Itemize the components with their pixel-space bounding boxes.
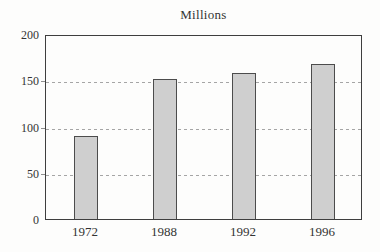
- y-tick-label-0: 0: [3, 214, 39, 226]
- x-tick-label-1992: 1992: [213, 224, 273, 240]
- y-tick-label-100: 100: [3, 122, 39, 134]
- bar-1988: [153, 79, 177, 219]
- y-tick-mark-150: [41, 81, 45, 82]
- y-tick-mark-50: [41, 174, 45, 175]
- y-tick-label-50: 50: [3, 168, 39, 180]
- y-tick-label-200: 200: [3, 29, 39, 41]
- bar-1972: [74, 136, 98, 219]
- x-tick-label-1996: 1996: [292, 224, 352, 240]
- plot-area: [45, 35, 362, 220]
- bar-chart-figure: Millions 050100150200 1972198819921996: [0, 0, 380, 252]
- y-tick-mark-100: [41, 128, 45, 129]
- chart-title: Millions: [45, 7, 362, 23]
- bar-1992: [232, 73, 256, 219]
- x-tick-label-1972: 1972: [55, 224, 115, 240]
- bar-1996: [311, 64, 335, 219]
- x-tick-label-1988: 1988: [134, 224, 194, 240]
- y-tick-label-150: 150: [3, 75, 39, 87]
